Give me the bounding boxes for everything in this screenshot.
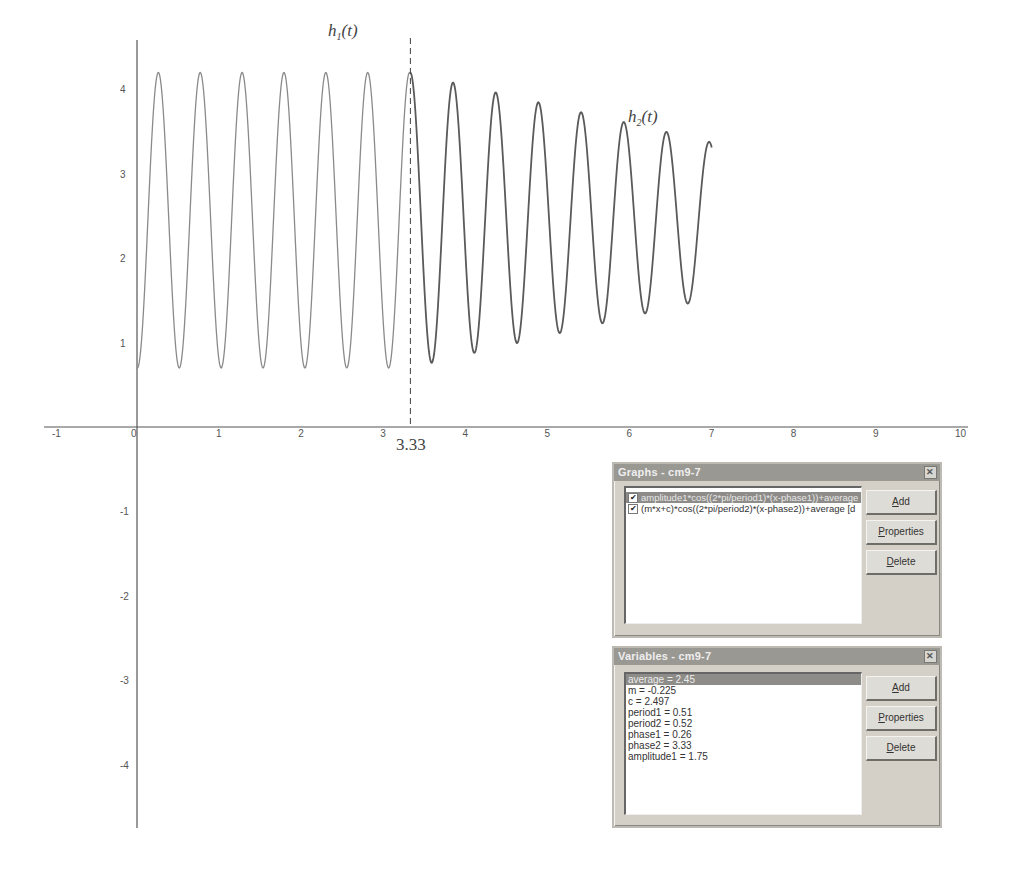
graphs-window-title: Graphs - cm9-7: [618, 466, 701, 478]
x-tick-label: 1: [216, 428, 222, 439]
y-tick-label: -1: [120, 506, 129, 517]
variable-properties-button[interactable]: Properties: [866, 706, 937, 731]
variables-window-title-bar[interactable]: Variables - cm9-7 ✕: [614, 648, 940, 665]
variable-item[interactable]: period2 = 0.52: [626, 718, 861, 729]
x-tick-label: 0: [131, 428, 137, 439]
y-tick-label: -4: [120, 760, 129, 771]
x-tick-label: 4: [462, 428, 468, 439]
delete-graph-button[interactable]: Delete: [866, 550, 937, 575]
svg-text:h2(t): h2(t): [628, 107, 658, 128]
annotation-h2: h2(t): [628, 107, 658, 128]
y-tick-label: 2: [120, 253, 126, 264]
x-tick-label: 3: [380, 428, 386, 439]
svg-text:h1(t): h1(t): [328, 21, 358, 42]
variable-item[interactable]: phase1 = 0.26: [626, 729, 861, 740]
curve-h2: [410, 73, 711, 363]
add-variable-button[interactable]: Add: [866, 676, 937, 701]
y-tick-label: 4: [120, 84, 126, 95]
variable-item[interactable]: amplitude1 = 1.75: [626, 751, 861, 762]
y-tick-label: -2: [120, 591, 129, 602]
variable-item[interactable]: c = 2.497: [626, 696, 861, 707]
variable-item[interactable]: m = -0.225: [626, 685, 861, 696]
graph-checkbox[interactable]: ✔: [628, 504, 638, 514]
graph-item[interactable]: ✔(m*x+c)*cos((2*pi/period2)*(x-phase2))+…: [626, 503, 861, 514]
delete-variable-button[interactable]: Delete: [866, 736, 937, 761]
x-tick-label: 6: [627, 428, 633, 439]
x-tick-label: 7: [709, 428, 715, 439]
graph-formula: (m*x+c)*cos((2*pi/period2)*(x-phase2))+a…: [641, 503, 855, 514]
graphs-window: Graphs - cm9-7 ✕ ✔amplitude1*cos((2*pi/p…: [612, 462, 942, 638]
variable-item[interactable]: period1 = 0.51: [626, 707, 861, 718]
x-tick-label: 10: [955, 428, 967, 439]
x-tick-label: 9: [873, 428, 879, 439]
y-tick-label: 1: [120, 338, 126, 349]
variable-item[interactable]: phase2 = 3.33: [626, 740, 861, 751]
x-tick-label: 5: [545, 428, 551, 439]
graphs-window-title-bar[interactable]: Graphs - cm9-7 ✕: [614, 464, 940, 481]
y-tick-label: 3: [120, 169, 126, 180]
close-icon[interactable]: ✕: [924, 650, 937, 663]
graph-checkbox[interactable]: ✔: [628, 493, 638, 503]
graphs-list[interactable]: ✔amplitude1*cos((2*pi/period1)*(x-phase1…: [624, 486, 862, 624]
curve-h1: [137, 73, 410, 368]
variables-window-title: Variables - cm9-7: [618, 650, 711, 662]
graph-item[interactable]: ✔amplitude1*cos((2*pi/period1)*(x-phase1…: [626, 492, 861, 503]
graph-formula: amplitude1*cos((2*pi/period1)*(x-phase1)…: [641, 492, 858, 503]
add-graph-button[interactable]: Add: [866, 490, 937, 515]
annotation-h1: h1(t): [328, 21, 358, 42]
x-tick-label: -1: [52, 428, 61, 439]
x-tick-labels: -1012345678910: [52, 428, 967, 439]
variables-window: Variables - cm9-7 ✕ average = 2.45 m = -…: [612, 646, 942, 828]
close-icon[interactable]: ✕: [924, 466, 937, 479]
graph-properties-button[interactable]: Properties: [866, 520, 937, 545]
variable-item[interactable]: average = 2.45: [626, 674, 861, 685]
marker-label-3-33: 3.33: [396, 435, 426, 454]
variables-list[interactable]: average = 2.45 m = -0.225 c = 2.497 peri…: [624, 672, 862, 815]
x-tick-label: 8: [791, 428, 797, 439]
y-tick-label: -3: [120, 675, 129, 686]
x-tick-label: 2: [298, 428, 304, 439]
